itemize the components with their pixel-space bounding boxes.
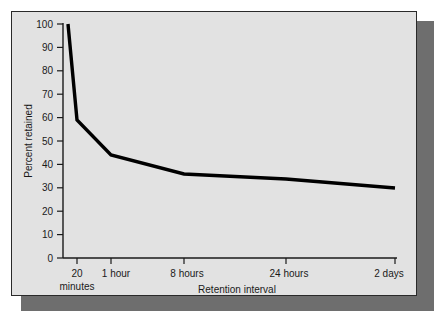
y-axis-ticks xyxy=(57,24,63,258)
y-axis-tick-labels: 100 90 80 70 60 50 40 30 20 10 0 xyxy=(36,19,53,264)
y-tick-label: 100 xyxy=(36,19,53,30)
y-tick-label: 40 xyxy=(42,159,54,170)
y-axis-title: Percent retained xyxy=(23,104,34,177)
y-tick-label: 60 xyxy=(42,112,54,123)
x-tick-label: 8 hours xyxy=(170,268,203,279)
x-tick-sublabel: minutes xyxy=(59,281,94,292)
y-tick-label: 0 xyxy=(47,253,53,264)
x-axis-ticks xyxy=(77,258,395,264)
x-tick-label: 20 xyxy=(71,268,83,279)
y-tick-label: 70 xyxy=(42,89,54,100)
y-tick-label: 20 xyxy=(42,206,54,217)
y-tick-label: 10 xyxy=(42,229,54,240)
x-axis-title: Retention interval xyxy=(198,284,276,295)
x-tick-label: 2 days xyxy=(374,268,403,279)
y-tick-label: 50 xyxy=(42,136,54,147)
y-tick-label: 30 xyxy=(42,182,54,193)
x-tick-label: 1 hour xyxy=(102,268,131,279)
retention-curve-line xyxy=(68,24,395,188)
chart-panel: 100 90 80 70 60 50 40 30 20 10 0 xyxy=(11,11,417,296)
figure-root: 100 90 80 70 60 50 40 30 20 10 0 xyxy=(0,0,434,318)
x-tick-label: 24 hours xyxy=(270,268,309,279)
y-tick-label: 90 xyxy=(42,42,54,53)
y-tick-label: 80 xyxy=(42,65,54,76)
forgetting-curve-chart: 100 90 80 70 60 50 40 30 20 10 0 xyxy=(12,12,416,295)
